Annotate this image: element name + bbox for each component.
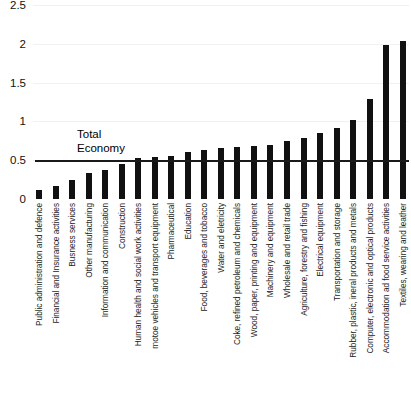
total-economy-reference-line [35,160,409,161]
bar [119,164,125,199]
x-axis-label-slot: motoe vehicles and transport equipment [152,201,158,411]
x-axis-label-slot: Busness services [69,201,75,411]
bar [86,173,92,199]
bar [367,99,373,199]
y-axis-tick-label: 2.5 [10,0,26,11]
x-axis-label-slot: Accommodation ad food service activities [383,201,389,411]
bar [234,147,240,199]
y-axis-tick-label: 1.5 [10,77,26,89]
x-axis-label-slot: Agriculture, forestry and fishing [301,201,307,411]
x-axis-label-slot: Electrical equipment [317,201,323,411]
x-axis-label-slot: Wholesale and retail trade [284,201,290,411]
x-axis-label-slot: Rubber, plastic, ineral products and met… [350,201,356,411]
x-axis-label-slot: Water and eletricity [218,201,224,411]
plot-area: Total Economy [33,5,409,199]
x-axis-tick-label: Water and eletricity [216,203,226,273]
x-axis-label-slot: Textiles, wearing and leather [400,201,406,411]
x-axis-tick-label: Transportation and storage [332,203,342,301]
bar-chart: 00.511.522.5 Total Economy Public admini… [0,0,411,414]
x-axis-label-slot: Pharmaceutical [168,201,174,411]
x-axis-tick-label: Agriculture, forestry and fishing [299,203,309,316]
x-axis-tick-label: Wholesale and retail trade [282,203,292,298]
x-axis-tick-label: Coke, refined petroleum and chemicals [232,203,242,345]
x-axis-tick-label: Rubber, plastic, ineral products and met… [348,203,358,358]
bar [53,186,59,199]
bar [152,157,158,199]
x-axis-tick-label: Accommodation ad food service activities [381,203,391,353]
x-axis-tick-label: Human health and social work activities [133,203,143,346]
x-axis-tick-label: Public administration and defence [34,203,44,326]
x-axis-tick-label: Machinery and equipment [265,203,275,297]
bar [317,133,323,199]
bar [251,146,257,199]
x-axis-label-slot: Information and communication [102,201,108,411]
x-axis-label-slot: Computer, electronic and optical product… [367,201,373,411]
bar [301,138,307,199]
x-axis-tick-label: Food, beverages and tobacco [199,203,209,311]
bar [135,158,141,199]
bar [168,156,174,199]
x-axis-tick-label: Financial and Insurance activities [51,203,61,324]
x-axis-tick-label: Construction [117,203,127,249]
x-axis-label-slot: Machinery and equipment [267,201,273,411]
total-economy-label: Total Economy [77,128,125,155]
bar [69,180,75,199]
bar [267,145,273,199]
x-axis-tick-label: Wood, paper, printing and equipment [249,203,259,337]
y-axis-tick-label: 2 [20,38,26,50]
x-axis-label-slot: Financial and Insurance activities [53,201,59,411]
x-axis-tick-label: Electrical equipment [315,203,325,277]
y-axis-tick-label: 1 [20,115,26,127]
y-axis-tick-label: 0.5 [10,154,26,166]
bar [383,45,389,199]
bar-series [33,5,409,199]
bar [284,141,290,199]
x-axis-label-slot: Human health and social work activities [135,201,141,411]
x-axis-tick-label: motoe vehicles and transport equipment [150,203,160,349]
bar [334,128,340,199]
x-axis-tick-label: Education [183,203,193,239]
bar [201,150,207,199]
x-axis-label-slot: Coke, refined petroleum and chemicals [234,201,240,411]
x-axis-label-slot: Wood, paper, printing and equipment [251,201,257,411]
x-axis-label-slot: Food, beverages and tobacco [201,201,207,411]
x-axis-tick-label: Textiles, wearing and leather [398,203,408,307]
x-axis-label-slot: Public administration and defence [36,201,42,411]
x-axis-label-slot: Education [185,201,191,411]
x-axis-tick-label: Other manufacturing [84,203,94,278]
bar [102,170,108,199]
bar [36,190,42,199]
x-axis-tick-label: Pharmaceutical [166,203,176,259]
x-axis-label-slot: Transportation and storage [334,201,340,411]
bar [218,148,224,199]
x-axis-labels: Public administration and defenceFinanci… [33,201,409,411]
bar [400,41,406,199]
y-axis: 00.511.522.5 [0,5,29,199]
y-axis-tick-label: 0 [20,193,26,205]
x-axis-tick-label: Information and communication [100,203,110,317]
x-axis-label-slot: Construction [119,201,125,411]
x-axis-label-slot: Other manufacturing [86,201,92,411]
x-axis-tick-label: Busness services [67,203,77,267]
x-axis-tick-label: Computer, electronic and optical product… [365,203,375,354]
